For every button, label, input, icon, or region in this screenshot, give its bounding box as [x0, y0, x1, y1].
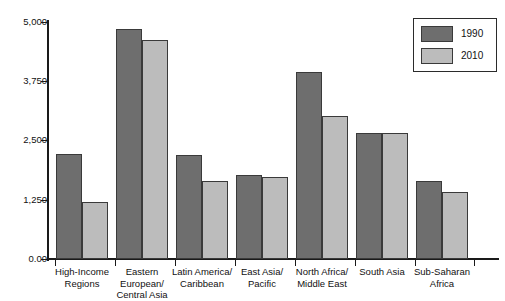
legend-swatch-icon [421, 26, 453, 42]
x-axis-label-line: Caribbean [169, 278, 235, 290]
y-tick-2: 2,500 [0, 135, 47, 145]
x-axis-label-line: Regions [49, 278, 115, 290]
x-axis-label: East Asia/Pacific [229, 266, 295, 289]
y-tick-1: 3,750 [0, 76, 47, 86]
legend: 1990 2010 [413, 18, 497, 72]
x-axis-label-line: East Asia/ [229, 266, 295, 278]
bar-2010 [82, 202, 108, 259]
legend-swatch-icon [421, 48, 453, 64]
bar-group [176, 22, 228, 259]
legend-label: 2010 [461, 50, 483, 62]
bar-1990 [116, 29, 142, 259]
x-axis-label: North Africa/Middle East [289, 266, 355, 289]
bar-group [356, 22, 408, 259]
bar-1990 [56, 154, 82, 259]
bar-1990 [356, 133, 382, 259]
x-axis-label-line: Sub-Saharan [409, 266, 475, 278]
x-axis-label-line: Pacific [229, 278, 295, 290]
x-axis-label-line: Africa [409, 278, 475, 290]
x-axis-label: Eastern European/Central Asia [109, 266, 175, 301]
legend-label: 1990 [461, 28, 483, 40]
legend-entry-1990: 1990 [421, 26, 491, 42]
legend-entry-2010: 2010 [421, 48, 491, 64]
bar-2010 [262, 177, 288, 259]
x-axis-label-line: Eastern European/ [109, 266, 175, 289]
x-axis-label: High-IncomeRegions [49, 266, 115, 289]
x-axis-label-line: Central Asia [109, 289, 175, 301]
y-tick-0: 5,000 [0, 17, 47, 27]
bar-2010 [442, 192, 468, 259]
bar-group [236, 22, 288, 259]
bar-chart: 5,000 3,750 2,500 1,250 0.00 High-Income… [0, 0, 505, 301]
x-axis-label: Latin America/Caribbean [169, 266, 235, 289]
bar-2010 [382, 133, 408, 259]
x-axis-label-line: North Africa/ [289, 266, 355, 278]
x-axis-label: South Asia [349, 266, 415, 278]
x-axis-label-line: Middle East [289, 278, 355, 290]
bar-1990 [416, 181, 442, 259]
bar-group [296, 22, 348, 259]
x-axis-label-line: South Asia [349, 266, 415, 278]
x-axis-label-line: Latin America/ [169, 266, 235, 278]
bar-group [116, 22, 168, 259]
bar-1990 [296, 72, 322, 259]
bar-group [56, 22, 108, 259]
bar-1990 [176, 155, 202, 259]
bar-2010 [202, 181, 228, 259]
bar-1990 [236, 175, 262, 259]
x-axis-label: Sub-SaharanAfrica [409, 266, 475, 289]
y-tick-3: 1,250 [0, 195, 47, 205]
x-axis-label-line: High-Income [49, 266, 115, 278]
bar-2010 [142, 40, 168, 259]
bar-2010 [322, 116, 348, 259]
y-tick-4: 0.00 [0, 254, 47, 264]
